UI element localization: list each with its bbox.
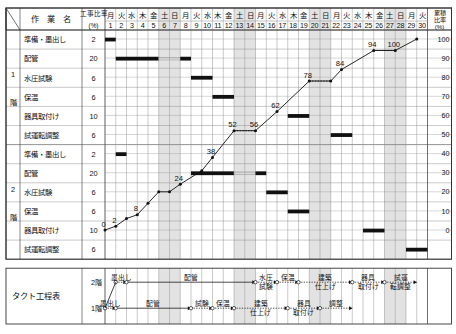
- takt-activity-label-2: 取付け: [293, 308, 314, 317]
- takt-arrow-head: [414, 280, 417, 284]
- takt-activity-label-2: 仕上げ: [250, 308, 271, 317]
- day-number-header: 26: [375, 21, 383, 30]
- cumulative-data-point: [372, 49, 375, 52]
- holiday-column: [170, 8, 181, 259]
- takt-activity-label-2: 試験: [259, 282, 273, 291]
- takt-activity-label: 保温: [216, 299, 230, 308]
- cumulative-tick-label: 30: [442, 168, 450, 177]
- holiday-column-takt: [159, 268, 170, 324]
- schedule-chart-container: 0102030405060708090100作 業 名工事比率(%)累積比率(%…: [4, 6, 452, 330]
- gantt-bar: [288, 114, 310, 118]
- takt-activity-label: 試験: [195, 299, 209, 308]
- cumulative-data-point: [157, 190, 160, 193]
- cumulative-data-point: [104, 229, 107, 232]
- takt-title: タクト工程表: [12, 291, 60, 301]
- weekday-header: 火: [268, 11, 276, 20]
- takt-activity-label-2: 仕上げ: [315, 282, 336, 291]
- weekday-header: 日: [171, 11, 178, 20]
- cumulative-data-point: [276, 110, 279, 113]
- takt-activity-label: 試運: [394, 273, 408, 282]
- day-number-header: 21: [321, 21, 329, 30]
- cumulative-tick-label: 50: [442, 130, 450, 139]
- day-number-header: 29: [407, 21, 415, 30]
- cumulative-data-point: [125, 217, 128, 220]
- day-number-header: 24: [354, 21, 362, 30]
- task-name-cell: 器具取付け: [24, 112, 59, 121]
- weekday-header: 木: [365, 11, 373, 20]
- task-ratio-cell: 20: [89, 169, 97, 178]
- takt-activity-label: 器具: [297, 300, 311, 308]
- day-number-header: 8: [184, 21, 188, 30]
- day-number-header: 1: [108, 21, 112, 30]
- day-number-header: 23: [343, 21, 351, 30]
- weekday-header: 日: [322, 11, 329, 20]
- takt-activity-label: 器具: [361, 274, 375, 282]
- gantt-bar: [116, 152, 127, 156]
- day-number-header: 14: [246, 21, 254, 30]
- takt-node: [286, 307, 289, 310]
- takt-activity-label: 配管: [184, 273, 198, 282]
- cumulative-data-point: [340, 68, 343, 71]
- day-number-header: 4: [141, 21, 145, 30]
- task-ratio-cell: 6: [91, 74, 95, 83]
- cumulative-data-point: [168, 190, 171, 193]
- task-ratio-cell: 20: [89, 54, 97, 63]
- cumulative-data-point: [329, 80, 332, 83]
- task-name-cell: 器具取付け: [24, 226, 59, 235]
- takt-activity-label: 調整: [329, 299, 343, 308]
- cumulative-data-point: [254, 129, 257, 132]
- task-ratio-cell: 6: [91, 188, 95, 197]
- weekday-header: 日: [247, 11, 254, 20]
- weekday-header: 木: [214, 11, 222, 20]
- cumulative-column-unit: (%): [435, 23, 445, 30]
- weekday-header: 月: [257, 11, 264, 20]
- day-number-header: 5: [151, 21, 155, 30]
- gantt-bar: [191, 76, 213, 80]
- gantt-bar: [266, 190, 288, 194]
- cumulative-tick-label: 10: [442, 207, 450, 216]
- table-row: 準備・墨出し2: [24, 150, 127, 159]
- schedule-svg: 0102030405060708090100作 業 名工事比率(%)累積比率(%…: [4, 6, 452, 330]
- takt-node: [351, 281, 354, 284]
- holiday-column: [309, 8, 320, 259]
- day-number-header: 2: [119, 21, 123, 30]
- takt-node: [297, 281, 300, 284]
- day-number-header: 15: [257, 21, 265, 30]
- weekday-header: 土: [311, 11, 318, 20]
- takt-node: [383, 281, 386, 284]
- weekday-header: 金: [150, 11, 158, 20]
- cumulative-data-point: [136, 213, 139, 216]
- table-row: 保温6: [24, 93, 234, 102]
- task-ratio-cell: 6: [91, 93, 95, 102]
- task-name-cell: 準備・墨出し: [24, 150, 66, 159]
- cumulative-tick-label: 100: [438, 35, 450, 44]
- takt-activity-label: 建築: [254, 299, 268, 308]
- day-number-header: 18: [289, 21, 297, 30]
- weekday-header: 火: [118, 11, 126, 20]
- task-name-cell: 配管: [24, 54, 38, 63]
- cumulative-tick-label: 60: [442, 111, 450, 120]
- takt-activity-label: 墨出し: [111, 273, 132, 282]
- table-row: 準備・墨出し2: [24, 35, 116, 44]
- table-row: 水圧試験6: [24, 74, 213, 83]
- takt-activity-label: 墨出し: [100, 299, 121, 308]
- takt-node: [114, 307, 117, 310]
- takt-activity-label: 水圧: [259, 273, 273, 282]
- cumulative-data-label: 38: [207, 147, 215, 156]
- cumulative-data-point: [415, 38, 418, 41]
- day-number-header: 30: [418, 21, 426, 30]
- cumulative-data-point: [200, 169, 203, 172]
- task-ratio-cell: 10: [89, 226, 97, 235]
- ratio-column-header: 工事比率: [80, 9, 108, 18]
- cumulative-data-label: 78: [304, 71, 312, 80]
- gantt-bar: [288, 210, 310, 214]
- cumulative-data-label: 84: [336, 59, 344, 68]
- day-number-header: 20: [311, 21, 319, 30]
- weekday-header: 日: [397, 11, 404, 20]
- takt-node: [232, 307, 235, 310]
- cumulative-tick-label: 90: [442, 54, 450, 63]
- weekday-header: 水: [279, 11, 287, 20]
- cumulative-tick-label: 70: [442, 92, 450, 101]
- takt-node: [254, 281, 257, 284]
- gantt-bar: [331, 133, 353, 137]
